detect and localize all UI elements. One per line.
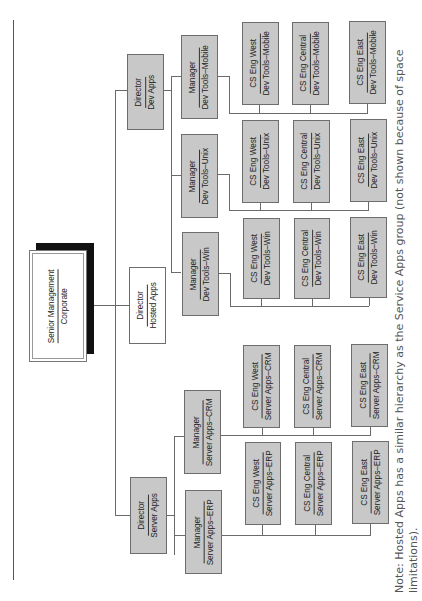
node-subtitle: Server Apps–CRM xyxy=(203,398,214,466)
node-title: Senior Management xyxy=(47,269,59,343)
team-cs-eng-west-crm: CS Eng WestServer Apps–CRM xyxy=(243,345,280,428)
manager-dev-tools-unix: Manager Dev Tools–Unix xyxy=(181,134,218,218)
node-subtitle: Dev Tools–Mobile xyxy=(261,31,272,95)
connector xyxy=(229,76,230,114)
connector xyxy=(260,203,261,210)
team-cs-eng-west-unix: CS Eng WestDev Tools–Unix xyxy=(242,120,279,203)
manager-dev-tools-mobile: Manager Dev Tools–Mobile xyxy=(181,35,218,119)
director-dev-apps: Director Dev Apps xyxy=(127,54,164,130)
page-rule xyxy=(13,20,14,580)
team-cs-eng-east-win: CS Eng EastDev Tools–Win xyxy=(350,217,387,298)
node-subtitle: Dev Tools–Unix xyxy=(369,132,380,189)
node-title: Director xyxy=(134,76,146,107)
team-cs-eng-central-crm: CS Eng CentralServer Apps–CRM xyxy=(294,345,331,428)
team-cs-eng-west-erp: CS Eng WestServer Apps–ERP xyxy=(245,442,281,525)
node-title: Manager xyxy=(188,47,200,107)
node-title: CS Eng West xyxy=(250,233,262,283)
connector xyxy=(230,306,369,307)
node-title: CS Eng East xyxy=(359,452,371,514)
connector xyxy=(311,203,312,210)
connector xyxy=(94,305,129,306)
node-subtitle: Dev Tools–Win xyxy=(313,228,324,289)
connector xyxy=(367,104,368,113)
connector xyxy=(229,210,369,211)
director-hosted-apps: Director Hosted Apps xyxy=(129,267,166,344)
node-subtitle: Dev Tools–Win xyxy=(369,230,380,284)
footnote: Note: Hosted Apps has a similar hierarch… xyxy=(393,13,421,593)
node-title: CS Eng West xyxy=(252,453,264,515)
connector xyxy=(230,273,231,307)
manager-dev-tools-win: Manager Dev Tools–Win xyxy=(182,232,219,316)
node-subtitle: Server Apps–ERP xyxy=(204,499,215,565)
team-cs-eng-central-unix: CS Eng CentralDev Tools–Unix xyxy=(293,120,330,203)
node-subtitle: Hosted Apps xyxy=(148,282,159,328)
connector xyxy=(313,428,314,435)
connector xyxy=(171,76,181,77)
node-title: Director xyxy=(137,495,149,536)
connector xyxy=(229,113,368,114)
node-title: CS Eng West xyxy=(249,33,261,93)
team-cs-eng-central-win: CS Eng CentralDev Tools–Win xyxy=(294,218,330,299)
team-cs-eng-central-erp: CS Eng CentralServer Apps–ERP xyxy=(295,442,332,525)
node-title: CS Eng Central xyxy=(299,33,311,93)
node-title: CS Eng Central xyxy=(301,230,313,287)
node-title: Director xyxy=(136,284,148,326)
node-subtitle: Corporate xyxy=(59,267,70,345)
node-subtitle: Server Apps–ERP xyxy=(264,451,275,517)
node-subtitle: Dev Tools–Unix xyxy=(312,131,323,192)
node-subtitle: Server Apps–CRM xyxy=(262,353,273,421)
node-subtitle: Dev Tools–Mobile xyxy=(311,31,322,95)
node-subtitle: Dev Apps xyxy=(146,74,157,109)
connector xyxy=(222,535,371,536)
node-title: CS Eng East xyxy=(357,134,369,187)
node-subtitle: Dev Tools–Unix xyxy=(200,148,211,205)
connector xyxy=(370,524,371,535)
connector xyxy=(259,105,260,113)
connector xyxy=(171,175,181,176)
team-cs-eng-east-unix: CS Eng EastDev Tools–Unix xyxy=(350,119,387,202)
node-subtitle: Server Apps–CRM xyxy=(370,352,381,420)
node-subtitle: Server Apps xyxy=(149,493,160,538)
team-cs-eng-west-mobile: CS Eng WestDev Tools–Mobile xyxy=(242,22,279,105)
node-title: Manager xyxy=(192,501,204,563)
node-subtitle: Dev Tools–Win xyxy=(262,231,273,285)
connector xyxy=(262,428,263,435)
connector xyxy=(115,90,127,91)
node-subtitle: Dev Tools–Mobile xyxy=(368,30,379,94)
node-title: Manager xyxy=(191,400,203,464)
director-server-apps: Director Server Apps xyxy=(130,477,167,554)
connector xyxy=(221,435,371,436)
manager-server-apps-crm: Manager Server Apps–CRM xyxy=(184,390,221,474)
node-subtitle: Dev Tools–Mobile xyxy=(200,45,211,109)
connector xyxy=(229,174,230,211)
node-subtitle: Server Apps–CRM xyxy=(313,353,324,421)
node-title: CS Eng Central xyxy=(302,453,314,515)
node-title: Manager xyxy=(189,249,201,299)
node-title: CS Eng East xyxy=(356,32,368,92)
node-subtitle: Server Apps–ERP xyxy=(371,450,382,516)
team-cs-eng-east-erp: CS Eng EastServer Apps–ERP xyxy=(352,441,389,524)
connector xyxy=(368,202,369,210)
manager-server-apps-erp: Manager Server Apps–ERP xyxy=(185,490,222,574)
connector xyxy=(312,299,313,306)
team-cs-eng-east-crm: CS Eng EastServer Apps–CRM xyxy=(351,344,388,427)
connector xyxy=(174,535,185,536)
connector xyxy=(315,525,316,535)
connector xyxy=(115,90,116,516)
root-node-senior-management: Senior Management Corporate xyxy=(29,250,87,362)
team-cs-eng-west-win: CS Eng WestDev Tools–Win xyxy=(243,218,280,299)
node-title: CS Eng Central xyxy=(300,133,312,190)
connector xyxy=(171,272,181,273)
connector xyxy=(115,515,130,516)
connector xyxy=(261,299,262,306)
node-title: Manager xyxy=(188,150,200,203)
node-subtitle: Dev Tools–Unix xyxy=(261,133,272,190)
team-cs-eng-central-mobile: CS Eng CentralDev Tools–Mobile xyxy=(292,22,329,105)
node-title: CS Eng West xyxy=(250,355,262,419)
connector xyxy=(174,436,175,555)
node-title: CS Eng East xyxy=(357,232,369,282)
node-subtitle: Dev Tools–Win xyxy=(201,247,212,301)
connector xyxy=(310,105,311,113)
node-title: CS Eng Central xyxy=(301,355,313,419)
connector xyxy=(369,298,370,306)
